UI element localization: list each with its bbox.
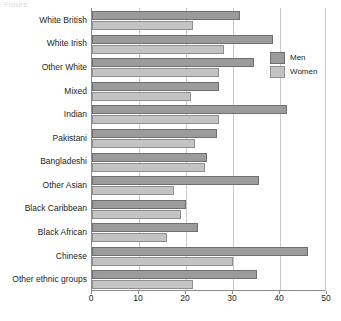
bar-men <box>92 200 186 209</box>
bar-women <box>92 186 174 195</box>
bar-men <box>92 176 259 185</box>
x-tick-label: 0 <box>89 293 94 303</box>
category-label: Mixed <box>0 86 87 96</box>
bar-women <box>92 233 167 242</box>
legend-swatch-icon <box>270 52 285 64</box>
bar-group <box>92 150 325 174</box>
bar-group <box>92 220 325 244</box>
x-tick-mark <box>91 291 92 294</box>
bar-women <box>92 257 233 266</box>
bar-men <box>92 58 254 67</box>
category-label: Bangladeshi <box>0 156 87 166</box>
x-tick-label: 10 <box>133 293 142 303</box>
legend-swatch-icon <box>270 66 285 78</box>
bar-women <box>92 115 219 124</box>
bar-group <box>92 102 325 126</box>
bar-group <box>92 267 325 291</box>
bar-group <box>92 244 325 268</box>
x-tick-label: 20 <box>180 293 189 303</box>
category-label: Black African <box>0 227 87 237</box>
bar-women <box>92 68 219 77</box>
category-label: Black Caribbean <box>0 203 87 213</box>
bar-men <box>92 129 217 138</box>
x-tick-mark <box>138 291 139 294</box>
legend-item-men: Men <box>270 51 306 64</box>
legend-item-women: Women <box>270 65 317 78</box>
bar-men <box>92 270 257 279</box>
bar-women <box>92 280 193 289</box>
chart-legend: MenWomen <box>270 51 338 81</box>
x-tick-mark <box>326 291 327 294</box>
bar-women <box>92 45 224 54</box>
bar-women <box>92 139 195 148</box>
legend-label: Men <box>290 53 306 62</box>
category-label: Other Asian <box>0 180 87 190</box>
category-label: Other ethnic groups <box>0 274 87 284</box>
bar-men <box>92 82 219 91</box>
category-label: Other White <box>0 62 87 72</box>
bar-women <box>92 92 191 101</box>
x-tick-label: 40 <box>274 293 283 303</box>
bar-group <box>92 126 325 150</box>
bar-men <box>92 105 287 114</box>
bar-men <box>92 153 207 162</box>
bar-group <box>92 173 325 197</box>
bar-women <box>92 163 205 172</box>
category-label: Chinese <box>0 251 87 261</box>
x-tick-label: 30 <box>227 293 236 303</box>
bar-men <box>92 35 273 44</box>
category-label: Indian <box>0 109 87 119</box>
legend-label: Women <box>290 67 317 76</box>
bar-group <box>92 8 325 32</box>
bar-women <box>92 210 181 219</box>
x-tick-mark <box>279 291 280 294</box>
category-label: White Irish <box>0 38 87 48</box>
bar-group <box>92 79 325 103</box>
bar-men <box>92 11 240 20</box>
bar-chart-figure: Figure MenWomen White BritishWhite Irish… <box>0 0 341 321</box>
category-label: White British <box>0 15 87 25</box>
bar-men <box>92 247 308 256</box>
category-label: Pakistani <box>0 133 87 143</box>
x-tick-mark <box>232 291 233 294</box>
x-tick-label: 50 <box>321 293 330 303</box>
title-fragment: Figure <box>4 0 28 7</box>
x-tick-mark <box>185 291 186 294</box>
bar-men <box>92 223 198 232</box>
bar-group <box>92 197 325 221</box>
bar-women <box>92 21 193 30</box>
